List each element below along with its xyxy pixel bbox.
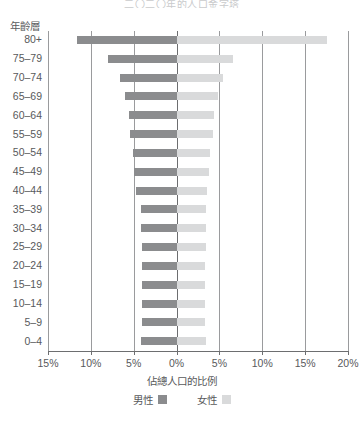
y-axis-title: 年齡層 <box>10 18 40 33</box>
bar-female <box>177 337 206 345</box>
x-axis-line <box>48 351 348 352</box>
x-tick-mark <box>48 351 49 355</box>
x-tick-label: 15% <box>285 357 325 369</box>
bar-male <box>142 262 176 270</box>
pyramid-row <box>48 219 348 238</box>
pyramid-row <box>48 163 348 182</box>
bar-male <box>133 149 177 157</box>
plot-area <box>48 31 348 351</box>
x-tick-mark <box>305 351 306 355</box>
x-tick-label: 5% <box>199 357 239 369</box>
bar-female <box>177 262 205 270</box>
bar-female <box>177 36 327 44</box>
y-tick-label: 20–24 <box>0 259 42 271</box>
x-tick-mark <box>348 351 349 355</box>
bar-male <box>141 224 176 232</box>
bar-male <box>142 243 176 251</box>
bar-female <box>177 92 218 100</box>
pyramid-row <box>48 144 348 163</box>
bar-female <box>177 149 210 157</box>
y-tick-label: 65–69 <box>0 90 42 102</box>
x-tick-label: 10% <box>71 357 111 369</box>
legend-label: 男性 <box>133 392 153 407</box>
gridline <box>348 31 349 351</box>
y-tick-label: 50–54 <box>0 146 42 158</box>
pyramid-row <box>48 182 348 201</box>
x-tick-label: 15% <box>28 357 68 369</box>
bar-female <box>177 111 215 119</box>
bar-female <box>177 300 205 308</box>
pyramid-row <box>48 332 348 351</box>
pyramid-row <box>48 106 348 125</box>
bar-female <box>177 205 206 213</box>
bar-male <box>130 130 176 138</box>
bar-female <box>177 243 206 251</box>
pyramid-row <box>48 50 348 69</box>
bar-female <box>177 168 210 176</box>
bar-male <box>77 36 176 44</box>
x-tick-mark <box>262 351 263 355</box>
bar-male <box>129 111 177 119</box>
bar-male <box>141 337 176 345</box>
bar-male <box>142 300 176 308</box>
pyramid-row <box>48 125 348 144</box>
x-tick-mark <box>91 351 92 355</box>
x-tick-label: 10% <box>242 357 282 369</box>
x-tick-label: 5% <box>114 357 154 369</box>
bar-male <box>108 55 177 63</box>
bar-male <box>120 74 177 82</box>
bar-female <box>177 55 234 63</box>
bar-male <box>134 168 177 176</box>
pyramid-row <box>48 31 348 50</box>
x-tick-mark <box>134 351 135 355</box>
bar-male <box>141 205 177 213</box>
bar-male <box>136 187 176 195</box>
y-tick-label: 0–4 <box>0 335 42 347</box>
bar-male <box>142 281 176 289</box>
x-tick-label: 0% <box>157 357 197 369</box>
bar-male <box>125 92 176 100</box>
pyramid-row <box>48 69 348 88</box>
y-tick-label: 75–79 <box>0 52 42 64</box>
population-pyramid-chart: 二〇二〇年的人口金字塔 年齡層 佔總人口的比例 男性女性 15%10%5%0%5… <box>0 0 364 422</box>
bar-female <box>177 318 205 326</box>
pyramid-row <box>48 295 348 314</box>
x-tick-label: 20% <box>328 357 364 369</box>
bar-female <box>177 74 223 82</box>
x-tick-mark <box>177 351 178 355</box>
y-tick-label: 10–14 <box>0 297 42 309</box>
legend-item[interactable]: 女性 <box>197 392 231 407</box>
y-tick-label: 15–19 <box>0 278 42 290</box>
chart-legend: 男性女性 <box>0 392 364 407</box>
chart-title: 二〇二〇年的人口金字塔 <box>0 0 364 8</box>
y-tick-label: 55–59 <box>0 128 42 140</box>
bar-male <box>142 318 176 326</box>
x-axis-title: 佔總人口的比例 <box>0 373 364 388</box>
y-tick-label: 70–74 <box>0 71 42 83</box>
bar-female <box>177 281 205 289</box>
legend-item[interactable]: 男性 <box>133 392 167 407</box>
pyramid-row <box>48 257 348 276</box>
y-tick-label: 25–29 <box>0 240 42 252</box>
legend-swatch <box>158 395 167 404</box>
y-tick-label: 60–64 <box>0 109 42 121</box>
x-tick-mark <box>219 351 220 355</box>
bar-female <box>177 187 208 195</box>
y-tick-label: 45–49 <box>0 165 42 177</box>
legend-label: 女性 <box>197 392 217 407</box>
bar-female <box>177 130 213 138</box>
y-tick-label: 35–39 <box>0 203 42 215</box>
y-tick-label: 30–34 <box>0 222 42 234</box>
pyramid-row <box>48 238 348 257</box>
y-tick-label: 40–44 <box>0 184 42 196</box>
legend-swatch <box>222 395 231 404</box>
pyramid-row <box>48 87 348 106</box>
y-tick-label: 5–9 <box>0 316 42 328</box>
pyramid-row <box>48 276 348 295</box>
bar-female <box>177 224 206 232</box>
y-tick-label: 80+ <box>0 33 42 45</box>
pyramid-row <box>48 200 348 219</box>
pyramid-row <box>48 313 348 332</box>
